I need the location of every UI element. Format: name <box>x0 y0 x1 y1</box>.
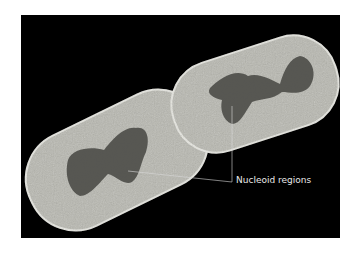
bacterium-illustration <box>0 0 356 255</box>
nucleoid-regions-label: Nucleoid regions <box>236 175 311 185</box>
